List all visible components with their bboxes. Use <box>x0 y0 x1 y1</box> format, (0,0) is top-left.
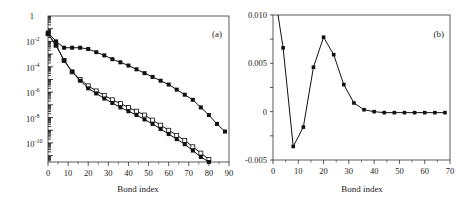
data-point <box>199 105 203 109</box>
y-tick-label: 0.010 <box>248 10 267 20</box>
data-point <box>413 111 417 115</box>
data-point <box>443 111 447 115</box>
data-point <box>223 130 227 134</box>
data-point <box>403 111 407 115</box>
data-point <box>46 32 50 36</box>
data-point <box>167 132 171 136</box>
y-tick-label: 0 <box>263 107 267 117</box>
data-point <box>94 50 98 54</box>
data-point <box>143 71 147 75</box>
data-point <box>86 86 90 90</box>
data-point <box>372 110 376 114</box>
data-point <box>332 53 336 57</box>
data-point <box>322 35 326 39</box>
data-point <box>110 101 114 105</box>
x-tick-label: 60 <box>164 168 173 178</box>
y-tick-label: 0.005 <box>248 58 267 68</box>
data-point <box>382 111 386 115</box>
data-point <box>342 83 346 87</box>
data-point <box>86 47 90 51</box>
data-point <box>102 97 106 101</box>
x-tick-label: 80 <box>205 168 214 178</box>
x-tick-label: 70 <box>446 166 455 176</box>
data-point <box>423 111 427 115</box>
data-point <box>352 101 356 105</box>
x-tick-label: 50 <box>144 168 153 178</box>
x-tick-label: 10 <box>294 166 303 176</box>
data-point <box>207 113 211 117</box>
data-point <box>102 53 106 57</box>
data-point <box>143 113 147 117</box>
data-point <box>159 127 163 131</box>
data-point <box>118 102 122 106</box>
x-tick-label: 50 <box>395 166 404 176</box>
data-point <box>62 46 66 50</box>
data-point <box>54 43 58 47</box>
x-tick-label: 30 <box>104 168 113 178</box>
data-point <box>151 122 155 126</box>
data-point <box>199 155 203 159</box>
data-point <box>159 79 163 83</box>
data-point <box>312 65 316 69</box>
x-axis-label-a: Bond index <box>117 184 159 194</box>
data-point <box>151 118 155 122</box>
data-point <box>281 46 285 50</box>
x-tick-label: 0 <box>271 166 275 176</box>
x-tick-label: 10 <box>64 168 73 178</box>
data-point <box>183 142 187 146</box>
y-tick-label: 10-8 <box>26 113 40 124</box>
data-point <box>134 109 138 113</box>
data-point <box>183 93 187 97</box>
data-point <box>291 145 295 149</box>
figure: 0102030405060708090110-210-410-610-810-1… <box>0 0 476 204</box>
data-point <box>159 123 163 127</box>
y-tick-label: 1 <box>30 11 34 21</box>
data-point <box>110 57 114 61</box>
x-tick-label: 20 <box>319 166 328 176</box>
data-point <box>78 79 82 83</box>
data-point <box>143 117 147 121</box>
panel-b-label: (b) <box>434 29 445 39</box>
x-tick-label: 30 <box>345 166 354 176</box>
panel-a-label: (a) <box>212 29 222 39</box>
data-point <box>126 64 130 68</box>
data-point <box>94 91 98 95</box>
x-tick-label: 0 <box>46 168 50 178</box>
data-point <box>191 145 195 149</box>
data-point <box>134 67 138 71</box>
data-point <box>126 105 130 109</box>
y-tick-label: 10-2 <box>26 36 40 47</box>
x-axis-label-b: Bond index <box>341 184 383 194</box>
data-point <box>302 125 306 129</box>
data-point <box>62 58 66 62</box>
data-point <box>167 83 171 87</box>
x-tick-label: 40 <box>370 166 379 176</box>
data-point <box>393 111 397 115</box>
data-point <box>183 138 187 142</box>
data-point <box>134 113 138 117</box>
x-tick-label: 40 <box>124 168 133 178</box>
data-point <box>78 46 82 50</box>
plot-frame <box>273 15 450 160</box>
y-tick-label: 10-10 <box>26 138 43 149</box>
data-point <box>126 109 130 113</box>
panel-b-chart: 0102030405060700.0100.0050-0.005 <box>245 10 454 176</box>
data-point <box>118 60 122 64</box>
x-tick-label: 60 <box>420 166 429 176</box>
y-tick-label: 10-6 <box>26 87 40 98</box>
x-tick-label: 20 <box>84 168 93 178</box>
data-point <box>175 137 179 141</box>
data-point <box>118 105 122 109</box>
data-point <box>433 111 437 115</box>
data-point <box>191 149 195 153</box>
x-tick-label: 70 <box>185 168 194 178</box>
data-point <box>175 88 179 92</box>
data-point <box>151 75 155 79</box>
y-tick-label: -0.005 <box>245 155 267 165</box>
data-point <box>70 46 74 50</box>
panel-a-chart: 0102030405060708090110-210-410-610-810-1… <box>26 11 233 178</box>
y-tick-label: 10-4 <box>26 62 40 73</box>
data-point <box>191 98 195 102</box>
data-point <box>207 160 211 164</box>
data-point <box>199 151 203 155</box>
